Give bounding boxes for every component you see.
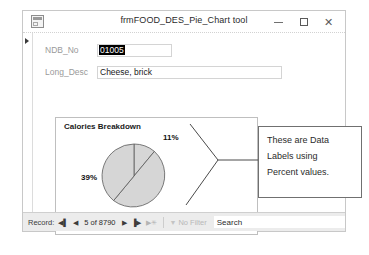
- record-selector-arrow-icon: [25, 38, 29, 44]
- label-long-desc: Long_Desc: [45, 67, 97, 77]
- pie-svg: [101, 143, 167, 209]
- screenshot-root: frmFOOD_DES_Pie_Chart tool ✕ NDB_No: [0, 0, 369, 255]
- close-button[interactable]: ✕: [316, 12, 341, 32]
- input-ndb-no-value: 01005: [99, 45, 125, 55]
- nav-divider: [163, 217, 164, 228]
- input-ndb-no[interactable]: 01005: [97, 44, 172, 57]
- filter-status-text: No Filter: [178, 218, 206, 227]
- close-icon: ✕: [324, 17, 333, 28]
- record-label: Record:: [28, 218, 54, 227]
- window-titlebar: frmFOOD_DES_Pie_Chart tool ✕: [23, 11, 345, 33]
- maximize-icon: [300, 18, 308, 26]
- next-record-button[interactable]: ▶: [121, 219, 128, 226]
- search-input[interactable]: Search: [214, 216, 345, 228]
- record-selector[interactable]: [23, 33, 33, 212]
- record-navigation-bar: Record: ◀▌ ◀ 5 of 8790 ▶ ▐▶ ▶✳ ▼ No Filt…: [23, 212, 345, 231]
- record-count-text[interactable]: 5 of 8790: [82, 218, 117, 227]
- minimize-icon: [274, 22, 283, 23]
- pie-chart: [101, 143, 167, 209]
- window-controls: ✕: [266, 11, 341, 33]
- field-row-ndb-no: NDB_No 01005: [45, 43, 172, 57]
- callout-line-2: Labels using: [267, 150, 353, 163]
- callout-line-3: Percent values.: [267, 166, 353, 179]
- search-placeholder: Search: [217, 218, 242, 227]
- field-row-long-desc: Long_Desc Cheese, brick: [45, 65, 282, 79]
- form-body: NDB_No 01005 Long_Desc Cheese, brick Cal…: [23, 33, 345, 212]
- previous-record-button[interactable]: ◀: [72, 219, 79, 226]
- input-long-desc-value: Cheese, brick: [99, 67, 153, 77]
- last-record-button[interactable]: ▐▶: [131, 219, 143, 226]
- maximize-button[interactable]: [291, 12, 316, 32]
- new-record-button[interactable]: ▶✳: [145, 219, 158, 226]
- callout-line-1: These are Data: [267, 134, 353, 147]
- label-ndb-no: NDB_No: [45, 45, 97, 55]
- input-long-desc[interactable]: Cheese, brick: [97, 66, 282, 79]
- annotation-callout: These are Data Labels using Percent valu…: [258, 126, 362, 198]
- filter-status[interactable]: ▼ No Filter: [169, 218, 206, 227]
- chart-title: Calories Breakdown: [64, 122, 141, 131]
- filter-icon: ▼: [169, 219, 176, 226]
- data-label-protein: 39%: [81, 173, 97, 182]
- access-form-window: frmFOOD_DES_Pie_Chart tool ✕ NDB_No: [22, 10, 346, 232]
- first-record-button[interactable]: ◀▌: [57, 219, 69, 226]
- data-label-carbohydrate: 11%: [163, 133, 179, 142]
- minimize-button[interactable]: [266, 12, 291, 32]
